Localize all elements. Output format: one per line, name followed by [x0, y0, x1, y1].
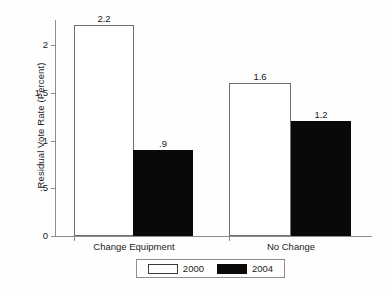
- y-tick-label-2: 2: [43, 39, 48, 50]
- y-tick-label-1-5: 1.5: [35, 87, 48, 98]
- bar-value-2000-no-change: 1.6: [253, 71, 266, 82]
- bar-value-2000-change-equipment: 2.2: [97, 13, 110, 24]
- y-tick-2: 2: [51, 45, 55, 46]
- bar-2004-no-change[interactable]: 1.2: [291, 121, 351, 236]
- y-tick-label-0: 0: [43, 230, 48, 241]
- y-axis-line: [55, 20, 56, 237]
- x-tick-group-mid: [229, 236, 230, 241]
- y-tick-label-1: 1: [43, 135, 48, 146]
- bar-value-2004-no-change: 1.2: [314, 109, 327, 120]
- bar-value-2004-change-equipment: .9: [159, 138, 167, 149]
- legend-label-2000: 2000: [183, 263, 204, 274]
- x-tick-group-start: [74, 236, 75, 241]
- chart-legend: 2000 2004: [136, 259, 285, 278]
- bar-2000-no-change[interactable]: 1.6: [229, 83, 291, 236]
- white-square-icon: [148, 264, 178, 274]
- bar-2004-change-equipment[interactable]: .9: [133, 150, 193, 236]
- bar-chart-figure: Residual Vote Rate (Percent) 2 1.5 1 .5 …: [0, 0, 387, 291]
- y-tick-label-0-5: .5: [40, 182, 48, 193]
- legend-label-2004: 2004: [252, 263, 273, 274]
- category-label-change-equipment: Change Equipment: [93, 241, 174, 252]
- y-tick-0: 0: [51, 236, 55, 237]
- y-tick-1-5: 1.5: [51, 93, 55, 94]
- category-label-no-change: No Change: [267, 241, 315, 252]
- plot-area: 2 1.5 1 .5 0 2.2 .9 Change Equipment 1.6: [55, 20, 372, 236]
- black-square-icon: [217, 264, 247, 274]
- bar-2000-change-equipment[interactable]: 2.2: [74, 25, 134, 236]
- x-axis-line: [55, 236, 372, 237]
- legend-entry-2000[interactable]: 2000: [148, 263, 204, 274]
- y-tick-0-5: .5: [51, 188, 55, 189]
- y-tick-1: 1: [51, 141, 55, 142]
- legend-entry-2004[interactable]: 2004: [217, 263, 273, 274]
